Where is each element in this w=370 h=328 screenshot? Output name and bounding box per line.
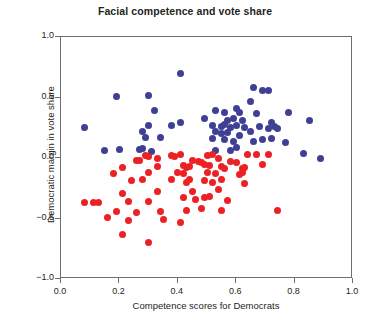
data-point bbox=[253, 110, 260, 117]
x-axis-tick bbox=[60, 278, 61, 283]
data-point bbox=[285, 109, 292, 116]
data-point bbox=[224, 197, 231, 204]
data-point bbox=[300, 150, 307, 157]
data-point bbox=[209, 179, 216, 186]
data-point bbox=[139, 145, 146, 152]
page-title: Facial competence and vote share bbox=[0, 5, 370, 17]
data-point bbox=[317, 155, 324, 162]
x-axis-label: Competence scores for Democrats bbox=[60, 300, 352, 311]
data-point bbox=[250, 84, 257, 91]
data-point bbox=[113, 208, 120, 215]
data-point bbox=[259, 136, 266, 143]
data-point bbox=[233, 159, 240, 166]
y-axis-tick bbox=[55, 218, 60, 219]
data-point bbox=[256, 123, 263, 130]
data-point bbox=[154, 188, 161, 195]
y-axis-tick bbox=[55, 157, 60, 158]
data-point bbox=[274, 125, 281, 132]
data-point bbox=[145, 122, 152, 129]
data-point bbox=[180, 194, 187, 201]
data-point bbox=[259, 161, 266, 168]
data-point bbox=[104, 214, 111, 221]
data-point bbox=[113, 93, 120, 100]
data-point bbox=[151, 107, 158, 114]
data-point bbox=[142, 134, 149, 141]
data-point bbox=[201, 115, 208, 122]
data-point bbox=[119, 164, 126, 171]
data-point bbox=[218, 207, 225, 214]
data-point bbox=[119, 190, 126, 197]
data-point bbox=[233, 144, 240, 151]
data-point bbox=[133, 209, 140, 216]
data-point bbox=[177, 119, 184, 126]
data-point bbox=[110, 170, 117, 177]
data-point bbox=[274, 207, 281, 214]
data-point bbox=[177, 151, 184, 158]
data-point bbox=[177, 219, 184, 226]
data-point bbox=[221, 165, 228, 172]
data-point bbox=[215, 186, 222, 193]
data-point bbox=[268, 135, 275, 142]
data-point bbox=[101, 147, 108, 154]
data-point bbox=[215, 155, 222, 162]
y-axis-tick-label: −0.5 bbox=[14, 212, 54, 222]
data-point bbox=[168, 122, 175, 129]
scatter-plot-figure: Facial competence and vote share Democra… bbox=[0, 0, 370, 328]
data-point bbox=[236, 109, 243, 116]
data-point bbox=[116, 146, 123, 153]
data-point bbox=[218, 176, 225, 183]
x-axis-tick bbox=[235, 278, 236, 283]
data-point bbox=[145, 92, 152, 99]
data-point bbox=[119, 231, 126, 238]
data-point bbox=[157, 134, 164, 141]
data-point bbox=[265, 87, 272, 94]
data-point bbox=[192, 196, 199, 203]
data-point bbox=[125, 217, 132, 224]
x-axis-tick-label: 1.0 bbox=[332, 286, 370, 296]
data-point bbox=[247, 98, 254, 105]
data-point bbox=[139, 176, 146, 183]
x-axis-tick-label: 0.6 bbox=[215, 286, 255, 296]
data-point bbox=[145, 153, 152, 160]
data-point bbox=[198, 205, 205, 212]
data-point bbox=[183, 207, 190, 214]
data-point bbox=[265, 151, 272, 158]
data-point bbox=[168, 176, 175, 183]
x-axis-tick-label: 0.4 bbox=[157, 286, 197, 296]
data-point bbox=[206, 193, 213, 200]
data-point bbox=[154, 155, 161, 162]
plot-area bbox=[60, 36, 352, 278]
x-axis-tick bbox=[294, 278, 295, 283]
data-point bbox=[306, 117, 313, 124]
data-point bbox=[125, 198, 132, 205]
data-point bbox=[157, 208, 164, 215]
data-point bbox=[209, 135, 216, 142]
data-point bbox=[250, 138, 257, 145]
data-point bbox=[81, 199, 88, 206]
data-point bbox=[204, 169, 211, 176]
data-point bbox=[145, 169, 152, 176]
data-point bbox=[128, 177, 135, 184]
x-axis-tick-label: 0.8 bbox=[274, 286, 314, 296]
data-point bbox=[247, 128, 254, 135]
x-axis-tick-label: 0.0 bbox=[40, 286, 80, 296]
data-point bbox=[206, 162, 213, 169]
x-axis-tick bbox=[177, 278, 178, 283]
data-point bbox=[145, 198, 152, 205]
data-point bbox=[282, 139, 289, 146]
data-point bbox=[95, 199, 102, 206]
data-point bbox=[221, 109, 228, 116]
data-point bbox=[81, 124, 88, 131]
data-point bbox=[221, 136, 228, 143]
data-point bbox=[189, 188, 196, 195]
y-axis-tick-label: 0.5 bbox=[14, 91, 54, 101]
data-point bbox=[212, 107, 219, 114]
y-axis-tick bbox=[55, 36, 60, 37]
x-axis-tick-label: 0.2 bbox=[98, 286, 138, 296]
data-point bbox=[160, 216, 167, 223]
data-point bbox=[236, 132, 243, 139]
data-point bbox=[186, 176, 193, 183]
data-point bbox=[145, 239, 152, 246]
y-axis-tick-label: 1.0 bbox=[14, 30, 54, 40]
data-point bbox=[224, 129, 231, 136]
